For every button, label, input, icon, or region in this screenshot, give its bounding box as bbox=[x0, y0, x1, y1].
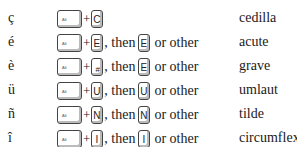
u-key-icon: U bbox=[91, 82, 103, 100]
plus-sign: + bbox=[83, 35, 90, 51]
shortcut-row-acute: é Alt + E , then E or other acute bbox=[0, 32, 297, 54]
plus-sign: + bbox=[83, 11, 90, 27]
accent-name: tilde bbox=[239, 106, 264, 122]
e-key-icon: E bbox=[138, 58, 150, 76]
key-combo: Alt + I , then I or other bbox=[57, 129, 198, 147]
shortcut-row-umlaut: ü Alt + U , then U or other umlaut bbox=[0, 80, 297, 102]
accent-name: circumflex bbox=[239, 130, 297, 146]
accented-char: é bbox=[8, 34, 14, 50]
then-text: , then bbox=[104, 107, 135, 123]
accented-char: è bbox=[8, 58, 14, 74]
plus-sign: + bbox=[83, 131, 90, 147]
then-text: , then bbox=[104, 83, 135, 99]
shortcut-row-circumflex: î Alt + I , then I or other circumflex bbox=[0, 128, 297, 147]
shortcut-row-grave: è Alt + ¯ # , then E or other grave bbox=[0, 56, 297, 78]
accent-name: acute bbox=[239, 34, 269, 50]
alt-key-icon: Alt bbox=[57, 34, 82, 52]
accented-char: ü bbox=[8, 82, 15, 98]
plus-sign: + bbox=[83, 59, 90, 75]
shortcut-row-cedilla: ç Alt + C cedilla bbox=[0, 8, 297, 30]
accent-name: umlaut bbox=[239, 82, 278, 98]
key-combo: Alt + C bbox=[57, 9, 103, 29]
alt-key-icon: Alt bbox=[57, 106, 82, 124]
n-key-icon: N bbox=[91, 106, 103, 124]
shortcut-row-tilde: ñ Alt + N , then N or other tilde bbox=[0, 104, 297, 126]
i-key-icon: I bbox=[91, 130, 103, 147]
then-text: , then bbox=[104, 35, 135, 51]
plus-sign: + bbox=[83, 83, 90, 99]
then-text: , then bbox=[104, 59, 135, 75]
or-other-text: or other bbox=[154, 83, 198, 99]
accented-char: î bbox=[8, 130, 12, 146]
accented-char: ç bbox=[8, 10, 14, 26]
alt-key-icon: Alt bbox=[57, 82, 82, 100]
key-combo: Alt + U , then U or other bbox=[57, 81, 198, 101]
then-text: , then bbox=[104, 131, 135, 147]
or-other-text: or other bbox=[154, 107, 198, 123]
alt-key-icon: Alt bbox=[57, 130, 82, 147]
key-shift-symbol: ¯ bbox=[94, 58, 98, 65]
i-key-icon: I bbox=[138, 130, 150, 147]
accent-name: cedilla bbox=[239, 10, 276, 26]
e-key-icon: E bbox=[91, 34, 103, 52]
key-symbol: # bbox=[96, 65, 100, 74]
plus-sign: + bbox=[83, 107, 90, 123]
or-other-text: or other bbox=[154, 35, 198, 51]
alt-key-icon: Alt bbox=[57, 58, 82, 76]
n-key-icon: N bbox=[138, 106, 150, 124]
u-key-icon: U bbox=[138, 82, 150, 100]
or-other-text: or other bbox=[154, 131, 198, 147]
key-combo: Alt + E , then E or other bbox=[57, 33, 198, 53]
accented-char: ñ bbox=[8, 106, 15, 122]
alt-key-icon: Alt bbox=[57, 10, 82, 28]
or-other-text: or other bbox=[154, 59, 198, 75]
key-combo: Alt + N , then N or other bbox=[57, 105, 198, 125]
hash-key-icon: ¯ # bbox=[91, 58, 103, 76]
e-key-icon: E bbox=[138, 34, 150, 52]
accent-name: grave bbox=[239, 58, 270, 74]
key-combo: Alt + ¯ # , then E or other bbox=[57, 57, 198, 77]
c-key-icon: C bbox=[91, 10, 103, 28]
